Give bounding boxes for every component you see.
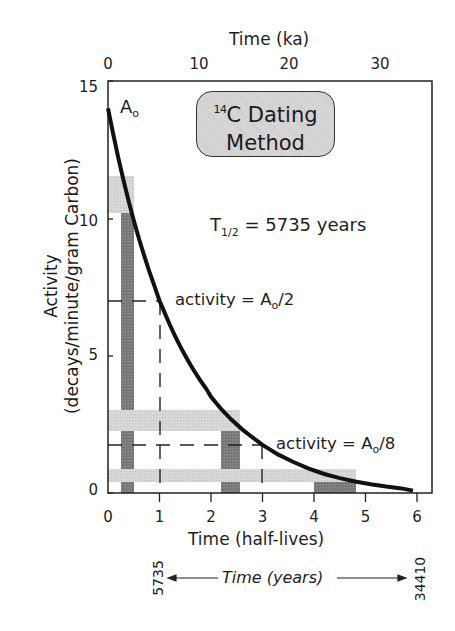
x-tick-label: 5 — [361, 508, 371, 526]
title-superscript: 14 — [213, 103, 226, 116]
x-tick-label: 2 — [206, 508, 216, 526]
x-tick-label: 6 — [412, 508, 422, 526]
y-axis-title: Activity (decays/minute/gram Carbon) — [41, 158, 83, 414]
x-axis-title: Time (half-lives) — [188, 529, 324, 549]
x-tick-label: 1 — [155, 508, 165, 526]
dark-bar-1 — [121, 213, 134, 493]
years-left-value: 5735 — [150, 556, 166, 600]
title-line-2: Method — [197, 129, 334, 157]
dark-bar-3 — [314, 482, 356, 493]
dark-bar-2 — [221, 431, 240, 493]
x-tick-label: 0 — [103, 508, 113, 526]
half-life-label: T1/2 = 5735 years — [210, 214, 366, 239]
a0-label: Ao — [120, 96, 139, 120]
chart-title-box: 14C Dating Method — [196, 91, 335, 157]
x-tick-label: 4 — [309, 508, 319, 526]
x-ticks — [160, 493, 418, 502]
activity-half-label: activity = Ao/2 — [175, 290, 294, 312]
years-right-value: 34410 — [412, 554, 428, 604]
title-line-1: C Dating — [226, 103, 317, 127]
x-tick-label: 3 — [258, 508, 268, 526]
activity-eighth-label: activity = Ao/8 — [276, 434, 395, 456]
years-axis-label: Time (years) — [222, 568, 323, 587]
y-tick-label: 15 — [68, 78, 98, 96]
y-tick-label: 0 — [68, 481, 98, 499]
